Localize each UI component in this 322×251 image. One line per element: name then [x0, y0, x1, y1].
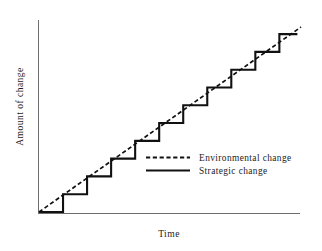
environmental-change-trendline — [39, 27, 301, 212]
strategic-change-stepline — [39, 34, 297, 212]
chart-legend: Environmental change Strategic change — [146, 151, 304, 177]
legend-item-environmental-change: Environmental change — [146, 151, 304, 164]
solid-line-swatch — [146, 165, 190, 176]
legend-item-strategic-change: Strategic change — [146, 164, 304, 177]
y-axis-title: Amount of change — [14, 67, 25, 146]
y-axis-title-wrapper: Amount of change — [0, 0, 38, 213]
series-environmental-change — [39, 27, 301, 212]
axes-group — [38, 20, 300, 214]
x-axis-title: Time — [38, 228, 300, 239]
legend-label-environmental-change: Environmental change — [190, 153, 292, 163]
chart-figure: Amount of change Time Environmental chan… — [0, 0, 322, 251]
series-strategic-change — [39, 34, 297, 212]
legend-label-strategic-change: Strategic change — [190, 166, 268, 176]
dashed-line-swatch — [146, 152, 190, 163]
chart-plot-area — [0, 0, 322, 251]
